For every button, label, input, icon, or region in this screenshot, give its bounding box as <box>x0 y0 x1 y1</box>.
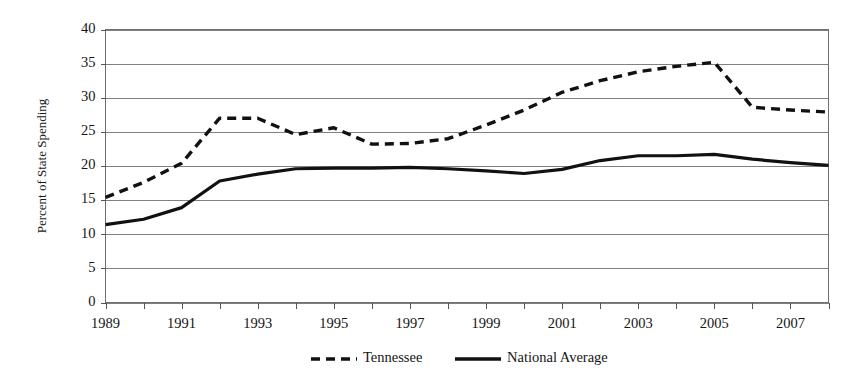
y-tick-label-10: 10 <box>81 225 96 241</box>
x-tick-label-1991: 1991 <box>167 315 196 331</box>
y-tick-label-25: 25 <box>81 122 96 138</box>
y-axis-title: Percent of State Spending <box>34 98 49 233</box>
x-tick-label-1999: 1999 <box>472 315 501 331</box>
x-tick-label-1997: 1997 <box>395 315 424 331</box>
y-axis-title-text: Percent of State Spending <box>34 98 49 233</box>
x-tick-label-2001: 2001 <box>548 315 577 331</box>
y-tick-label-15: 15 <box>81 190 96 206</box>
x-tick-label-1989: 1989 <box>91 315 120 331</box>
chart-figure: 0510152025303540 19891991199319951997199… <box>0 0 860 386</box>
legend-label-national-average: National Average <box>507 349 608 365</box>
x-tick-label-1995: 1995 <box>319 315 348 331</box>
legend-label-tennessee: Tennessee <box>363 349 422 365</box>
x-tick-label-2007: 2007 <box>776 315 805 331</box>
x-tick-label-1993: 1993 <box>243 315 272 331</box>
x-tick-label-2005: 2005 <box>700 315 729 331</box>
y-tick-label-0: 0 <box>88 293 95 309</box>
line-chart: 0510152025303540 19891991199319951997199… <box>0 0 860 386</box>
y-tick-label-40: 40 <box>81 20 96 36</box>
y-tick-label-20: 20 <box>81 156 96 172</box>
x-tick-label-2003: 2003 <box>624 315 653 331</box>
chart-background <box>0 0 860 386</box>
y-tick-label-35: 35 <box>81 54 96 70</box>
y-tick-label-5: 5 <box>88 259 95 275</box>
y-tick-label-30: 30 <box>81 88 96 104</box>
